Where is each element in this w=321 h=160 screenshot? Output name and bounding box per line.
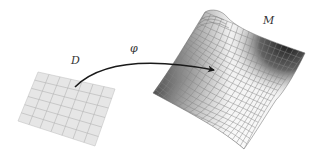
domain-label: D	[71, 55, 80, 66]
map-label-phi: φ	[130, 43, 138, 54]
domain-d-grid	[18, 72, 115, 146]
manifold-m-surface	[140, 0, 321, 160]
manifold-label: M	[263, 15, 274, 26]
mapping-diagram: D φ M	[0, 0, 321, 160]
